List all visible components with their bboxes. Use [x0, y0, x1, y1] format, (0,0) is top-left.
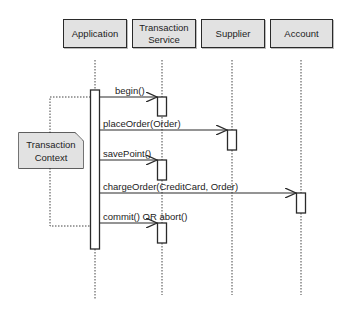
- participant-supplier: Supplier: [201, 19, 265, 48]
- participant-application: Application: [63, 19, 127, 48]
- note-connector-bottom: [50, 168, 90, 226]
- activation-ts-begin: [158, 97, 167, 116]
- message-label-begin: begin(): [115, 85, 145, 96]
- message-label-commit-abort: commit() OR abort(): [103, 211, 187, 222]
- note-transaction-context: Transaction Context: [19, 133, 83, 168]
- note-label: Transaction Context: [26, 138, 75, 164]
- participant-supplier-label: Supplier: [216, 28, 251, 40]
- activation-application: [91, 90, 100, 249]
- message-label-save-point: savePoint(): [103, 148, 151, 159]
- sequence-diagram: Application Transaction Service Supplier…: [0, 0, 349, 314]
- activation-bars: [91, 90, 306, 249]
- message-label-charge-order: chargeOrder(CreditCard, Order): [103, 181, 238, 192]
- participant-account: Account: [270, 19, 333, 48]
- activation-supplier: [228, 130, 237, 150]
- activation-ts-savepoint: [158, 160, 167, 180]
- activation-account: [297, 193, 306, 213]
- participant-application-label: Application: [72, 28, 118, 40]
- activation-ts-commit: [158, 223, 167, 243]
- participant-transaction-service-label: Transaction Service: [139, 22, 188, 46]
- message-arrows: [100, 97, 297, 223]
- lifelines: [95, 60, 301, 300]
- participant-account-label: Account: [284, 28, 318, 40]
- note-connector-top: [50, 97, 90, 133]
- participant-transaction-service: Transaction Service: [132, 19, 196, 48]
- message-label-place-order: placeOrder(Order): [103, 118, 181, 129]
